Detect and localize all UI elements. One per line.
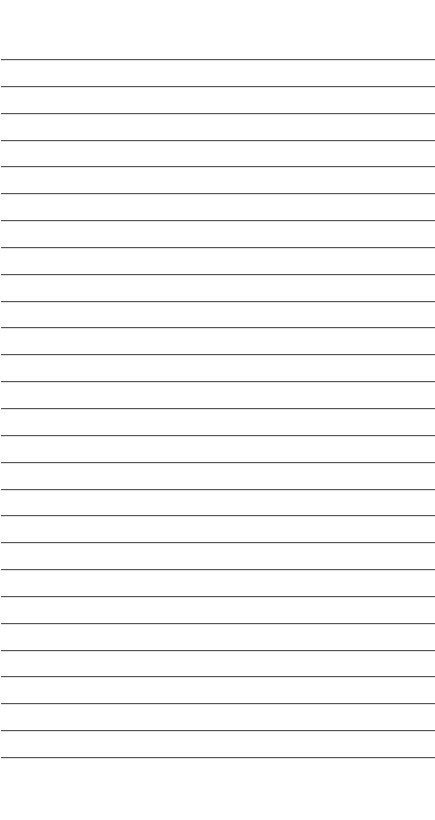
ruled-line <box>1 489 435 490</box>
ruled-line <box>1 113 435 114</box>
ruled-line <box>1 650 435 651</box>
ruled-line <box>1 623 435 624</box>
ruled-line <box>1 274 435 275</box>
ruled-line <box>1 730 435 731</box>
ruled-line <box>1 757 435 758</box>
ruled-line <box>1 220 435 221</box>
ruled-line <box>1 381 435 382</box>
ruled-line <box>1 703 435 704</box>
ruled-line <box>1 327 435 328</box>
lined-paper-page <box>0 0 435 820</box>
ruled-line <box>1 435 435 436</box>
ruled-line <box>1 462 435 463</box>
ruled-line <box>1 676 435 677</box>
ruled-line <box>1 515 435 516</box>
ruled-line <box>1 247 435 248</box>
ruled-line <box>1 354 435 355</box>
ruled-line <box>1 596 435 597</box>
ruled-line <box>1 140 435 141</box>
ruled-line <box>1 408 435 409</box>
ruled-line <box>1 569 435 570</box>
ruled-line <box>1 59 435 60</box>
ruled-line <box>1 166 435 167</box>
ruled-line <box>1 86 435 87</box>
ruled-line <box>1 193 435 194</box>
ruled-line <box>1 542 435 543</box>
ruled-line <box>1 301 435 302</box>
